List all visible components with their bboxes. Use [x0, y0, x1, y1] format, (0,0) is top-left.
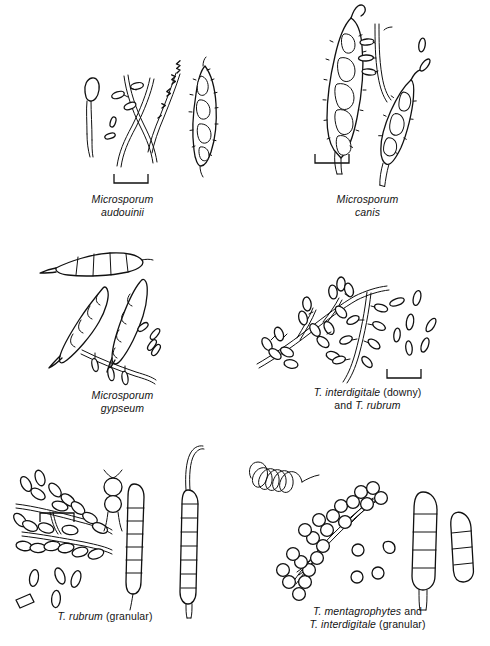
macroconidium-audouinii [189, 57, 218, 177]
caption-microsporum-audouinii: Microsporum audouinii [0, 193, 245, 218]
panel-microsporum-audouinii: Microsporum audouinii [0, 0, 245, 232]
caption-line-2: and T. rubrum [245, 399, 490, 412]
hypha-with-microconidia-rubrum [11, 469, 112, 561]
panel-artwork-microsporum-gypseum [0, 232, 245, 392]
caption-t-interdigitale-downy-and-t-rubrum: T. interdigitale (downy) and T. rubrum [245, 386, 490, 411]
scale-bar-t-interdigitale-downy [385, 367, 425, 381]
caption-line-1: T. rubrum (granular) [0, 610, 210, 623]
panel-artwork-t-interdigitale-downy [245, 262, 490, 392]
macroconidium-mentagrophytes-2 [447, 511, 476, 583]
pectinate-hypha [148, 61, 180, 153]
free-microconidia-gypseum [137, 321, 162, 357]
macroconidium-mentagrophytes-1 [412, 492, 437, 610]
macroconidium-canis-small [365, 64, 427, 189]
figure-plate: Microsporum audouinii [0, 0, 490, 646]
free-microconidia-interdigitale [389, 290, 438, 356]
free-microconidia-rubrum [16, 567, 83, 608]
scale-bar-microsporum-audouinii [112, 172, 152, 186]
globose-microconidia-cluster [277, 482, 388, 601]
macroconidium-rubrum-1 [126, 484, 144, 610]
scale-bar-microsporum-canis [313, 152, 353, 166]
free-microconidia-audouinii [104, 116, 117, 140]
panel-microsporum-canis: Microsporum canis [245, 0, 490, 232]
panel-microsporum-gypseum: Microsporum gypseum [0, 232, 245, 432]
macroconidium-canis-large [323, 5, 367, 174]
chlamydoconidium-on-hypha [85, 78, 99, 157]
free-globose-microconidia [351, 541, 395, 583]
panel-t-mentagrophytes-and-t-interdigitale-granular: T. mentagrophytes and T. interdigitale (… [245, 442, 490, 646]
macroconidium-gypseum-1 [40, 253, 153, 276]
caption-line-2: gypseum [0, 402, 245, 415]
caption-line-2: canis [245, 206, 490, 219]
caption-line-1: Microsporum [0, 389, 245, 402]
panel-t-interdigitale-downy-and-t-rubrum: T. interdigitale (downy) and T. rubrum [245, 262, 490, 437]
caption-t-rubrum-granular: T. rubrum (granular) [0, 610, 210, 623]
panel-artwork-t-mentagrophytes [245, 442, 490, 607]
caption-microsporum-canis: Microsporum canis [245, 193, 490, 218]
panel-t-rubrum-granular: T. rubrum (granular) [0, 442, 245, 646]
free-microconidia-canis [418, 38, 432, 73]
caption-line-2: audouinii [0, 206, 245, 219]
panel-artwork-t-rubrum-granular [0, 442, 245, 612]
macroconidium-gypseum-2 [49, 287, 108, 368]
panel-artwork-microsporum-audouinii [0, 0, 245, 195]
caption-t-mentagrophytes-and-t-interdigitale-granular: T. mentagrophytes and T. interdigitale (… [245, 605, 490, 630]
caption-line-1: Microsporum [0, 193, 245, 206]
chlamydoconidia-chain-rubrum [104, 470, 122, 531]
caption-line-1: T. mentagrophytes and [245, 605, 490, 618]
racquet-hyphae [111, 75, 157, 167]
caption-microsporum-gypseum: Microsporum gypseum [0, 389, 245, 414]
macroconidium-rubrum-2 [180, 446, 204, 618]
caption-line-2: T. interdigitale (granular) [245, 618, 490, 631]
spiral-hypha [249, 462, 319, 492]
caption-line-1: T. interdigitale (downy) [245, 386, 490, 399]
caption-line-1: Microsporum [245, 193, 490, 206]
panel-artwork-microsporum-canis [245, 0, 490, 195]
